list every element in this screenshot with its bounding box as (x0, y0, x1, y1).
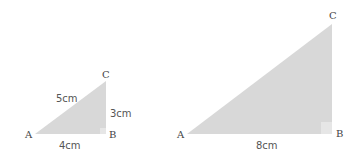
small-base-label: 4cm (59, 140, 81, 151)
large-triangle-shape (187, 24, 332, 134)
large-vertex-a: A (176, 129, 185, 140)
small-right-angle-mark (100, 128, 106, 134)
similar-triangles-diagram: A B C 5cm 3cm 4cm A B C 8cm (0, 0, 363, 159)
small-vertex-a: A (24, 129, 33, 140)
small-triangle-shape (35, 81, 106, 134)
large-base-label: 8cm (256, 140, 278, 151)
small-triangle: A B C 5cm 3cm 4cm (24, 69, 132, 151)
small-vertical-label: 3cm (110, 108, 132, 119)
large-right-angle-mark (321, 122, 332, 134)
large-triangle: A B C 8cm (176, 10, 343, 151)
large-vertex-c: C (329, 10, 337, 21)
small-vertex-c: C (102, 69, 110, 80)
small-vertex-b: B (109, 129, 116, 140)
large-vertex-b: B (336, 128, 343, 139)
small-hypotenuse-label: 5cm (56, 93, 78, 104)
